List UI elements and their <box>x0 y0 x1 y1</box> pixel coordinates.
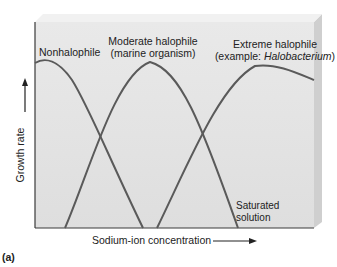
label-moderate-line1: Moderate halophile <box>103 35 203 47</box>
label-moderate-halophile: Moderate halophile (marine organism) <box>103 35 203 59</box>
label-extreme-prefix: (example: <box>215 50 264 62</box>
annotation-saturated-solution: Saturated solution <box>236 200 279 224</box>
label-extreme-line1: Extreme halophile <box>200 38 337 50</box>
annotation-line2: solution <box>236 212 279 224</box>
label-extreme-genus: Halobacterium <box>264 50 332 62</box>
label-extreme-halophile: Extreme halophile (example: Halobacteriu… <box>200 38 337 62</box>
y-arrow-head-icon <box>22 78 28 86</box>
halophile-growth-chart: Nonhalophile Moderate halophile (marine … <box>0 0 337 267</box>
x-arrow-head-icon <box>249 238 257 244</box>
label-nonhalophile: Nonhalophile <box>39 46 100 58</box>
y-axis-title: Growth rate <box>14 125 26 185</box>
label-extreme-line2: (example: Halobacterium) <box>200 50 337 62</box>
annotation-line1: Saturated <box>236 200 279 212</box>
panel-top-bevel <box>35 14 322 22</box>
label-extreme-suffix: ) <box>332 50 336 62</box>
label-moderate-line2: (marine organism) <box>103 47 203 59</box>
panel-label: (a) <box>2 251 15 263</box>
x-axis-title: Sodium-ion concentration <box>92 234 211 246</box>
